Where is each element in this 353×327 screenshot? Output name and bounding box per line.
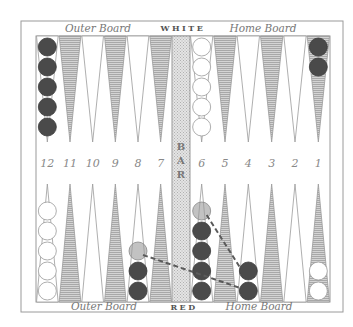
point-number-7: 7	[157, 157, 164, 170]
point-number-3: 3	[268, 157, 275, 170]
white-checker[interactable]	[309, 262, 327, 280]
dark-checker[interactable]	[129, 262, 147, 280]
white-checker[interactable]	[38, 242, 56, 260]
white-checker[interactable]	[193, 58, 211, 76]
dark-checker[interactable]	[239, 262, 257, 280]
dark-checker[interactable]	[38, 98, 56, 116]
white-checker[interactable]	[38, 202, 56, 220]
bottom-outer-board-label: Outer Board	[71, 300, 137, 312]
red-label: RED	[170, 302, 197, 312]
point-number-8: 8	[135, 157, 142, 170]
dark-checker[interactable]	[309, 58, 327, 76]
dark-checker[interactable]	[193, 222, 211, 240]
point-number-11: 11	[63, 157, 77, 170]
dark-checker[interactable]	[38, 58, 56, 76]
dark-checker[interactable]	[193, 282, 211, 300]
top-outer-board-label: Outer Board	[65, 22, 131, 34]
point-number-2: 2	[291, 157, 299, 170]
point-number-12: 12	[40, 157, 54, 170]
backgammon-board: BAR 121110987654321 Outer Board WHITE Ho…	[0, 0, 353, 327]
point-number-1: 1	[315, 157, 322, 170]
white-checker[interactable]	[193, 38, 211, 56]
dark-checker[interactable]	[309, 38, 327, 56]
top-home-board-label: Home Board	[228, 22, 296, 34]
dark-checker[interactable]	[239, 282, 257, 300]
point-number-5: 5	[222, 157, 229, 170]
point-number-9: 9	[112, 157, 119, 170]
white-checker[interactable]	[38, 222, 56, 240]
white-checker[interactable]	[38, 282, 56, 300]
dark-checker[interactable]	[38, 38, 56, 56]
point-number-4: 4	[244, 157, 252, 170]
white-checker[interactable]	[309, 282, 327, 300]
bar-label: BAR	[176, 141, 186, 180]
point-number-6: 6	[198, 157, 205, 170]
dark-checker[interactable]	[193, 242, 211, 260]
point-number-10: 10	[86, 157, 100, 170]
white-checker[interactable]	[193, 98, 211, 116]
white-label: WHITE	[160, 23, 206, 33]
white-checker[interactable]	[38, 262, 56, 280]
bottom-home-board-label: Home Board	[224, 300, 292, 312]
dark-checker[interactable]	[38, 78, 56, 96]
white-checker[interactable]	[193, 118, 211, 136]
white-checker[interactable]	[193, 78, 211, 96]
ghost-checker	[129, 242, 147, 260]
dark-checker[interactable]	[38, 118, 56, 136]
dark-checker[interactable]	[129, 282, 147, 300]
